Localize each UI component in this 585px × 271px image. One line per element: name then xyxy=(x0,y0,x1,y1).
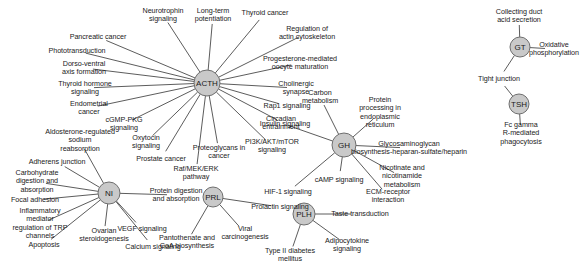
node-label-camp-signaling[interactable]: cAMP signaling xyxy=(315,176,364,184)
node-label-progesterone-oocyte[interactable]: Progesterone-mediated oocyte maturation xyxy=(263,55,337,72)
node-label-thyroid-hormone-signaling[interactable]: Thyroid hormone signaling xyxy=(58,80,112,97)
edge-gh-camp-signaling xyxy=(340,157,342,171)
edge-acth-proteoglycans-cancer xyxy=(209,96,217,143)
node-label-hif1-signaling[interactable]: HIF-1 signaling xyxy=(264,188,312,196)
edge-prl-viral-carcinogenesis xyxy=(220,204,239,226)
edge-acth-endometrial-cancer xyxy=(98,86,194,106)
node-label-prolactin-signaling[interactable]: Prolactin signaling xyxy=(251,203,308,211)
node-label-dorso-ventral[interactable]: Dorso-ventral axis formation xyxy=(62,60,106,77)
node-label-glycosaminoglycan[interactable]: Glycosaminoglycan biosynthesis-heparan-s… xyxy=(351,140,467,157)
node-label-aldosterone-sodium[interactable]: Aldosterone-regulated sodium reabsorptio… xyxy=(45,128,115,153)
edge-acth-cholinergic-synapse xyxy=(220,84,287,88)
hub-label-tsh: TSH xyxy=(511,100,527,109)
edge-gt-tight-junction xyxy=(504,55,515,71)
node-label-adipocytokine-signaling[interactable]: Adipocytokine signaling xyxy=(325,237,369,254)
node-label-long-term-potentiation[interactable]: Long-term potentiation xyxy=(195,7,232,24)
edge-acth-thyroid-cancer xyxy=(215,20,259,73)
edge-nf-ovarian-steroidogenesis xyxy=(105,204,108,226)
node-label-regulation-actin[interactable]: Regulation of actin cytoskeleton xyxy=(279,25,335,42)
edge-acth-neurotrophin-signaling xyxy=(168,23,200,73)
edge-acth-long-term-potentiation xyxy=(208,24,212,70)
hub-label-plh: PLH xyxy=(296,210,312,219)
node-label-viral-carcinogenesis[interactable]: Viral carcinogenesis xyxy=(221,225,268,242)
node-label-carbohydrate-digestion[interactable]: Carbohydrate digestion and absorption xyxy=(16,169,59,194)
edge-plh-type2-diabetes xyxy=(293,224,301,246)
node-label-circadian-entrainment[interactable]: Circadian entrainment xyxy=(262,115,299,132)
node-label-oxidative-phosphorylation[interactable]: Oxidative phosphorylation xyxy=(529,41,579,58)
node-label-proteoglycans-cancer[interactable]: Proteoglycans in cancer xyxy=(193,144,245,161)
hub-label-acth: ACTH xyxy=(196,79,218,88)
node-label-thyroid-cancer[interactable]: Thyroid cancer xyxy=(242,9,289,17)
node-label-adherens-junction[interactable]: Adherens junction xyxy=(29,158,86,166)
hub-label-gh: GH xyxy=(338,141,350,150)
node-label-neurotrophin-signaling[interactable]: Neurotrophin signaling xyxy=(143,7,184,24)
edge-gh-carbon-metabolism xyxy=(324,105,339,134)
node-label-type2-diabetes[interactable]: Type II diabetes mellitus xyxy=(265,247,315,264)
edge-tsh-tight-junction xyxy=(505,86,513,96)
node-label-prostate-cancer[interactable]: Prostate cancer xyxy=(136,155,186,163)
node-label-tight-junction[interactable]: Tight junction xyxy=(478,75,520,83)
hub-label-nf: NI xyxy=(105,189,113,198)
hub-label-gt: GT xyxy=(514,43,525,52)
edge-nf-aldosterone-sodium xyxy=(84,149,103,184)
node-label-taste-transduction[interactable]: Taste transduction xyxy=(331,210,388,218)
node-label-carbon-metabolism[interactable]: Carbon metabolism xyxy=(302,89,338,106)
node-label-focal-adhesion[interactable]: Focal adhesion xyxy=(11,196,59,204)
edge-nf-adherens-junction xyxy=(65,167,100,188)
node-label-pi3k-akt-mtor[interactable]: PI3K/AKT/mTOR signaling xyxy=(245,138,299,155)
node-label-inflammatory-trp[interactable]: Inflammatory mediator regulation of TRP … xyxy=(13,207,68,241)
node-label-endometrial-cancer[interactable]: Endometrial cancer xyxy=(70,100,108,117)
node-label-apoptosis[interactable]: Apoptosis xyxy=(28,241,59,249)
node-label-protein-digestion[interactable]: Protein digestion and absorption xyxy=(150,187,203,204)
edge-nf-vegf-signaling xyxy=(116,201,135,222)
node-label-fc-gamma[interactable]: Fc gamma R-mediated phagocytosis xyxy=(500,121,541,146)
node-label-pantothenate-coa[interactable]: Pantothenate and CoA biosynthesis xyxy=(159,234,215,251)
edge-acth-pi3k-akt-mtor xyxy=(216,92,265,140)
node-label-pancreatic-cancer[interactable]: Pancreatic cancer xyxy=(70,33,127,41)
node-label-raf-mek-erk[interactable]: Raf/MEK/ERK pathway xyxy=(174,165,219,182)
edge-prl-pantothenate-coa xyxy=(192,206,208,235)
hub-label-prl: PRL xyxy=(205,193,221,202)
node-label-ecm-receptor[interactable]: ECM-receptor interaction xyxy=(366,188,410,205)
node-label-protein-processing-er[interactable]: Protein processing in endoplasmic reticu… xyxy=(359,96,401,130)
node-label-collecting-duct[interactable]: Collecting duct acid secretion xyxy=(496,8,542,25)
node-label-oxytocin-signaling[interactable]: Oxytocin signaling xyxy=(132,134,160,151)
network-diagram-canvas: ACTHNIPRLGHPLHTSHGT Neurotrophin signali… xyxy=(0,0,585,271)
node-label-phototransduction[interactable]: Phototransduction xyxy=(48,47,105,55)
